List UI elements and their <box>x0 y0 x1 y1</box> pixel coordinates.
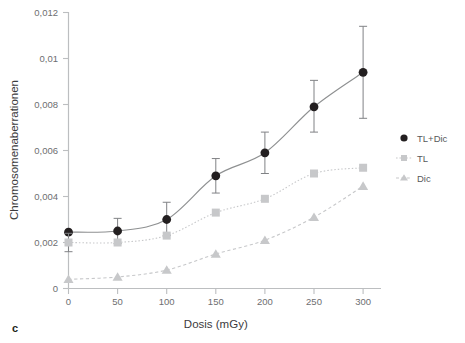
y-tick-label-5: 0,01 <box>40 53 59 64</box>
legend-label-1: TL <box>417 153 428 164</box>
panel-letter-label: c <box>12 322 18 334</box>
data-point-square-marker-icon[interactable] <box>163 232 171 240</box>
chart-background <box>0 0 465 343</box>
x-tick-label-5: 250 <box>306 296 322 307</box>
y-tick-label-3: 0,006 <box>34 145 58 156</box>
y-tick-label-4: 0,008 <box>34 99 58 110</box>
chromosome-aberration-chart: 0 0,002 0,004 0,006 0,008 0,01 0,012 0 5… <box>0 0 465 343</box>
data-point-circle-marker-icon[interactable] <box>211 171 220 180</box>
data-point-circle-marker-icon[interactable] <box>162 215 171 224</box>
y-tick-label-0: 0 <box>53 283 58 294</box>
y-tick-label-6: 0,012 <box>34 7 58 18</box>
x-axis-title: Dosis (mGy) <box>184 318 248 330</box>
data-point-square-marker-icon[interactable] <box>114 239 122 247</box>
y-tick-label-2: 0,004 <box>34 191 58 202</box>
legend-label-2: Dic <box>417 173 431 184</box>
data-point-square-marker-icon[interactable] <box>212 209 220 217</box>
legend-circle-marker-icon <box>400 134 407 141</box>
data-point-square-marker-icon[interactable] <box>261 195 269 203</box>
legend-label-0: TL+Dic <box>417 133 448 144</box>
data-point-circle-marker-icon[interactable] <box>359 68 368 77</box>
x-tick-label-3: 150 <box>208 296 224 307</box>
y-tick-label-1: 0,002 <box>34 237 58 248</box>
x-tick-label-6: 300 <box>355 296 371 307</box>
legend-square-marker-icon <box>401 155 407 161</box>
x-tick-label-1: 50 <box>112 296 123 307</box>
data-point-square-marker-icon[interactable] <box>310 170 318 178</box>
x-tick-label-4: 200 <box>257 296 273 307</box>
x-tick-label-2: 100 <box>159 296 175 307</box>
data-point-square-marker-icon[interactable] <box>359 164 367 172</box>
data-point-circle-marker-icon[interactable] <box>113 227 122 236</box>
data-point-square-marker-icon[interactable] <box>65 239 73 247</box>
figure-panel-c: 0 0,002 0,004 0,006 0,008 0,01 0,012 0 5… <box>0 0 465 343</box>
y-axis-title: Chromosomenaberrationen <box>8 80 20 220</box>
data-point-circle-marker-icon[interactable] <box>310 102 319 111</box>
x-tick-label-0: 0 <box>66 296 71 307</box>
data-point-circle-marker-icon[interactable] <box>261 148 270 157</box>
